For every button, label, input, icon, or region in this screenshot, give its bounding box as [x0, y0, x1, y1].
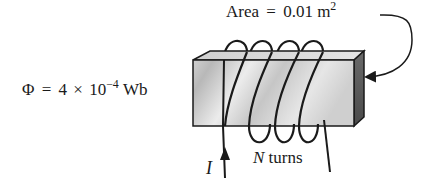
core-top-face	[193, 51, 364, 60]
turns-symbol: N	[253, 148, 264, 167]
flux-exponent: −4	[106, 77, 119, 91]
current-label: I	[206, 158, 212, 179]
turns-label: N turns	[253, 148, 303, 168]
area-prefix: Area	[226, 2, 259, 21]
output-lead	[324, 120, 330, 172]
current-arrow-icon	[220, 147, 230, 160]
flux-equals: =	[42, 80, 52, 99]
iron-core	[193, 51, 364, 126]
turns-text: turns	[269, 148, 303, 167]
flux-times: ×	[73, 80, 83, 99]
flux-base: 10	[89, 80, 106, 99]
flux-coefficient: 4	[59, 80, 68, 99]
area-label: Area = 0.01 m2	[226, 2, 336, 22]
core-front-face	[193, 60, 354, 126]
flux-label: Φ = 4 × 10−4 Wb	[22, 80, 148, 100]
area-exponent: 2	[330, 0, 336, 13]
flux-symbol: Φ	[22, 80, 34, 99]
core-side-face	[354, 51, 364, 126]
flux-unit: Wb	[123, 80, 148, 99]
area-leader-arrow	[367, 15, 412, 77]
area-equals: =	[266, 2, 276, 21]
area-value: 0.01 m	[283, 2, 330, 21]
